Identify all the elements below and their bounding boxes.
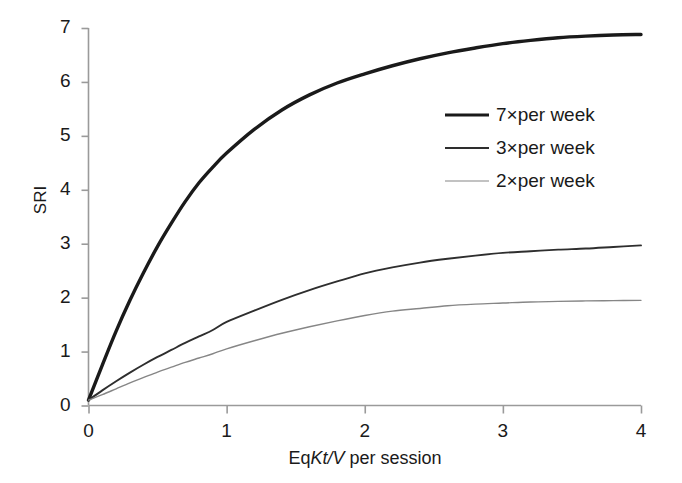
y-tick-label: 2 <box>41 286 71 308</box>
x-axis-label-suffix: per session <box>344 448 441 468</box>
x-tick-label: 4 <box>626 420 656 442</box>
x-axis-label-italic: Kt/V <box>310 448 344 468</box>
x-tick-label: 1 <box>212 420 242 442</box>
series-line-2 <box>89 245 642 400</box>
legend-item: 3×per week <box>445 131 645 164</box>
legend-label: 7×per week <box>496 104 595 126</box>
chart-legend: 7×per week3×per week2×per week <box>445 98 645 197</box>
plot-canvas <box>0 0 682 483</box>
y-tick-label: 6 <box>41 70 71 92</box>
y-axis-label: SRI <box>31 155 51 245</box>
x-tick-label: 0 <box>74 420 104 442</box>
y-axis-ticks <box>82 29 89 407</box>
legend-item: 2×per week <box>445 164 645 197</box>
x-axis-label-prefix: Eq <box>288 448 310 468</box>
series-line-1 <box>89 34 642 400</box>
x-tick-label: 2 <box>350 420 380 442</box>
y-tick-label: 7 <box>41 16 71 38</box>
y-tick-label: 5 <box>41 124 71 146</box>
legend-line-swatch <box>445 141 489 155</box>
x-tick-label: 3 <box>488 420 518 442</box>
y-tick-label: 0 <box>41 394 71 416</box>
data-series-group <box>89 34 642 400</box>
legend-label: 3×per week <box>496 137 595 159</box>
legend-line-swatch <box>445 108 489 122</box>
x-axis-label: EqKt/V per session <box>88 448 642 469</box>
chart-figure: 01234567 01234 SRI EqKt/V per session 7×… <box>0 0 682 483</box>
legend-item: 7×per week <box>445 98 645 131</box>
legend-line-swatch <box>445 174 489 188</box>
axes-lines <box>89 28 642 406</box>
y-tick-label: 1 <box>41 340 71 362</box>
legend-label: 2×per week <box>496 170 595 192</box>
x-axis-ticks <box>89 406 642 414</box>
